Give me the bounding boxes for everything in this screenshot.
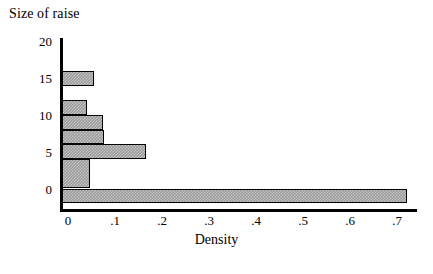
bar-10-to-12 [62,100,87,115]
x-tick-label: .3 [189,214,229,228]
bar-14-to-16 [62,71,94,86]
x-axis-title: Density [0,232,433,248]
bar-0-to-4 [62,159,90,188]
x-tick-label: .4 [236,214,276,228]
x-tick-label: .6 [330,214,370,228]
x-tick-label: .5 [283,214,323,228]
plot-area: Size of raise 20 15 10 5 0 0 .1 .2 .3 .4… [0,0,433,274]
x-tick-label: .1 [95,214,135,228]
histogram-chart: Size of raise 20 15 10 5 0 0 .1 .2 .3 .4… [0,0,433,274]
bar-8-to-10 [62,115,103,130]
bar-4-to-6 [62,144,146,159]
x-tick-label: .2 [142,214,182,228]
x-tick-label: .7 [377,214,417,228]
bar-6-to-8 [62,130,104,145]
bar-minus2-to-0 [62,189,407,204]
x-tick-label: 0 [48,214,88,228]
